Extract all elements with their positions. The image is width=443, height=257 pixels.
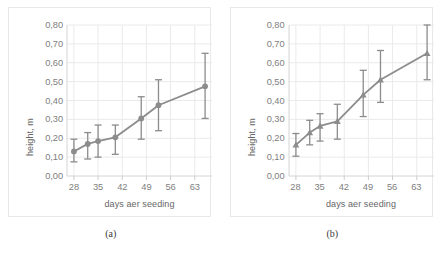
panel-b-frame: height, m 0,000,100,200,300,400,500,600,… (230, 7, 433, 217)
panel-b-x-tick-label: 35 (314, 182, 324, 192)
panel-a-y-tick-labels: 0,000,100,200,300,400,500,600,700,80 (35, 8, 63, 218)
panel-b-y-axis-title: height, m (247, 6, 257, 156)
panel-a-y-tick: 0,80 (45, 20, 63, 30)
panel-b-data-point (423, 50, 430, 56)
panel-a-x-tick-label: 63 (190, 182, 200, 192)
panel-a-frame: height, m 0,000,100,200,300,400,500,600,… (8, 7, 211, 217)
panel-a-data-point (71, 149, 77, 155)
panel-b-y-tick: 0,40 (267, 96, 285, 106)
panel-a-y-tick: 0,10 (45, 152, 63, 162)
panel-b-x-tick-label: 28 (290, 182, 300, 192)
panel-b-y-tick: 0,80 (267, 20, 285, 30)
panel-a-x-tick-label: 49 (141, 182, 151, 192)
panel-a-y-tick: 0,20 (45, 133, 63, 143)
panel-b-svg (289, 25, 434, 176)
panel-b-y-tick-labels: 0,000,100,200,300,400,500,600,700,80 (257, 8, 285, 218)
panel-a-data-point (138, 116, 144, 122)
panel-a-y-tick: 0,60 (45, 58, 63, 68)
panel-a-data-point (156, 102, 162, 108)
panel-a-plot-area (67, 25, 212, 176)
panel-a: height, m 0,000,100,200,300,400,500,600,… (0, 0, 222, 257)
panel-b-plot-area (289, 25, 434, 176)
panel-a-data-point (112, 134, 118, 140)
panel-b-y-tick: 0,10 (267, 152, 285, 162)
panel-a-x-tick-label: 56 (165, 182, 175, 192)
figure-two-panel-chart: height, m 0,000,100,200,300,400,500,600,… (0, 0, 443, 257)
panel-b-x-tick-label: 56 (387, 182, 397, 192)
panel-a-caption: (a) (0, 228, 222, 239)
panel-a-y-tick: 0,30 (45, 114, 63, 124)
panel-b-caption: (b) (222, 228, 443, 239)
panel-b-y-tick: 0,50 (267, 77, 285, 87)
panel-b-y-tick: 0,20 (267, 133, 285, 143)
panel-a-data-point (202, 83, 208, 89)
panel-a-y-tick: 0,40 (45, 96, 63, 106)
panel-a-x-axis-title: days aer seeding (104, 199, 174, 209)
panel-a-y-axis-title: height, m (25, 6, 35, 156)
panel-a-x-tick-label: 28 (69, 182, 79, 192)
panel-b-y-tick: 0,70 (267, 39, 285, 49)
panel-b-x-tick-label: 49 (363, 182, 373, 192)
panel-b-x-tick-label: 42 (339, 182, 349, 192)
panel-a-x-tick-label: 35 (93, 182, 103, 192)
panel-b-y-tick: 0,60 (267, 58, 285, 68)
panel-b-y-tick: 0,00 (267, 171, 285, 181)
panel-a-svg (67, 25, 212, 176)
panel-b-x-axis-title: days aer seeding (326, 199, 396, 209)
panel-b-x-tick-label: 63 (411, 182, 421, 192)
panel-a-x-tick-label: 42 (117, 182, 127, 192)
panel-a-data-point (85, 141, 91, 147)
panel-a-y-tick: 0,00 (45, 171, 63, 181)
panel-a-y-tick: 0,70 (45, 39, 63, 49)
panel-b: height, m 0,000,100,200,300,400,500,600,… (222, 0, 443, 257)
panel-b-y-tick: 0,30 (267, 114, 285, 124)
panel-a-data-point (95, 138, 101, 144)
panel-a-y-tick: 0,50 (45, 77, 63, 87)
